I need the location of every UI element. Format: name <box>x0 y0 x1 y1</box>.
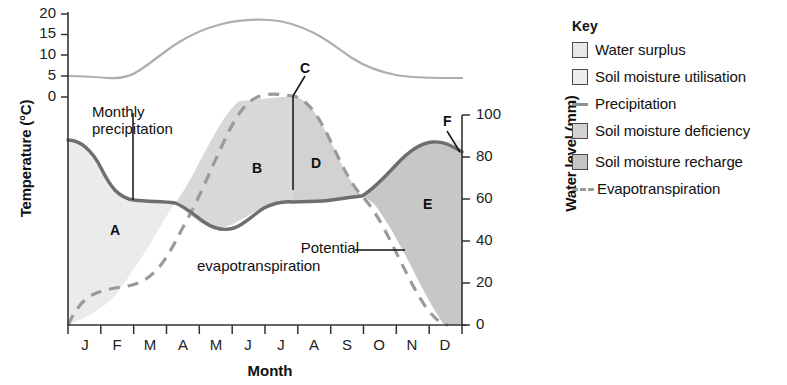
annotation-potential-evapotranspiration-line1: Potential <box>297 240 359 257</box>
annotation-monthly-precipitation-line1: Monthly <box>92 103 145 120</box>
right-tick-60: 60 <box>476 189 510 206</box>
month-tick-jun: J <box>236 336 260 353</box>
right-tick-40: 40 <box>476 231 510 248</box>
region-label-f: F <box>443 113 452 129</box>
soil-moisture-utilisation-swatch-icon <box>572 69 588 85</box>
key-label-soil-moisture-utilisation: Soil moisture utilisation <box>595 68 746 85</box>
x-axis-title-month: Month <box>180 362 360 379</box>
left-tick-0: 0 <box>26 87 56 104</box>
figure-root: Temperature (°C) Water level (mm) Month … <box>0 0 787 385</box>
key-label-evapotranspiration: Evapotranspiration <box>597 180 720 197</box>
key-item-evapotranspiration: Evapotranspiration <box>572 178 784 199</box>
key-label-soil-moisture-recharge: Soil moisture recharge <box>595 153 743 170</box>
key-label-precipitation: Precipitation <box>595 95 676 112</box>
left-tick-15: 15 <box>26 24 56 41</box>
month-tick-oct: O <box>367 336 391 353</box>
right-tick-20: 20 <box>476 273 510 290</box>
right-tick-100: 100 <box>476 105 510 122</box>
annotation-monthly-precipitation: Monthly precipitation <box>92 104 173 138</box>
area-water-surplus-left <box>68 140 175 325</box>
annotation-potential-evapotranspiration-line2: evapotranspiration <box>197 258 320 275</box>
month-tick-aug: A <box>302 336 326 353</box>
left-tick-5: 5 <box>26 66 56 83</box>
key-label-water-surplus: Water surplus <box>595 41 686 58</box>
temperature-curve <box>68 20 462 79</box>
area-soil-moisture-deficiency-d <box>293 96 362 202</box>
month-tick-apr: A <box>171 336 195 353</box>
month-tick-feb: F <box>105 336 129 353</box>
month-tick-sep: S <box>335 336 359 353</box>
region-label-b: B <box>252 160 262 176</box>
region-label-d: D <box>311 155 321 171</box>
month-tick-jul: J <box>269 336 293 353</box>
region-label-c: C <box>300 60 310 76</box>
right-tick-0: 0 <box>476 315 510 332</box>
left-axis-ticks <box>61 14 68 97</box>
right-axis-ticks <box>462 115 470 325</box>
leader-line-c-top <box>293 76 305 96</box>
key-item-precipitation: Precipitation <box>572 93 784 114</box>
region-label-a: A <box>110 222 120 238</box>
left-tick-20: 20 <box>26 4 56 21</box>
key-title: Key <box>572 18 784 34</box>
chart-key: Key Water surplus Soil moisture utilisat… <box>572 18 784 205</box>
month-axis-ticks <box>68 325 462 334</box>
key-label-soil-moisture-deficiency: Soil moisture deficiency <box>595 122 750 139</box>
right-tick-80: 80 <box>476 147 510 164</box>
key-item-water-surplus: Water surplus <box>572 39 784 60</box>
annotation-monthly-precipitation-line2: precipitation <box>92 120 173 137</box>
water-surplus-swatch-icon <box>572 42 588 58</box>
water-balance-chart: Temperature (°C) Water level (mm) Month … <box>0 0 560 385</box>
key-item-soil-moisture-utilisation: Soil moisture utilisation <box>572 66 784 87</box>
soil-moisture-deficiency-swatch-icon <box>572 123 588 139</box>
area-soil-moisture-recharge <box>362 142 462 325</box>
key-item-soil-moisture-deficiency: Soil moisture deficiency <box>572 120 784 141</box>
month-tick-jan: J <box>73 336 97 353</box>
key-item-soil-moisture-recharge: Soil moisture recharge <box>572 151 784 172</box>
evapotranspiration-dashed-line-icon <box>572 181 594 197</box>
region-label-e: E <box>423 196 432 212</box>
soil-moisture-recharge-swatch-icon <box>572 154 588 170</box>
month-tick-nov: N <box>400 336 424 353</box>
month-tick-mar: M <box>138 336 162 353</box>
month-tick-may: M <box>204 336 228 353</box>
month-tick-dec: D <box>433 336 457 353</box>
precipitation-line-icon <box>572 96 588 112</box>
left-tick-10: 10 <box>26 45 56 62</box>
